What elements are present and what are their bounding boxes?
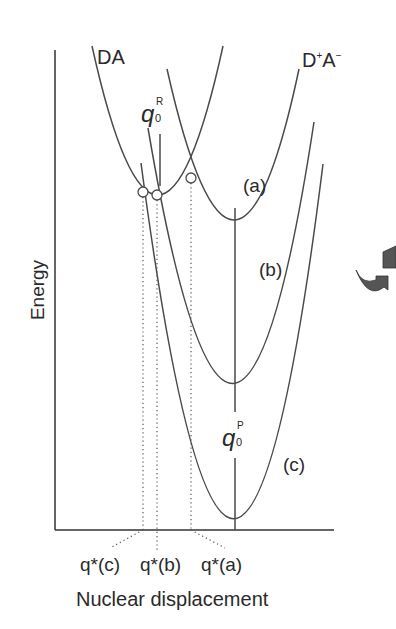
label-c: (c) <box>283 454 305 475</box>
leader-c <box>110 530 143 548</box>
label-qstar-b: q*(b) <box>140 554 181 575</box>
product-curve-a <box>167 69 299 220</box>
leader-a <box>191 530 225 548</box>
label-q0P: q <box>222 424 236 451</box>
label-q0R-sub: 0 <box>155 112 161 124</box>
y-axis-label: Energy <box>27 259 48 320</box>
label-q0R-sup: R <box>156 96 163 107</box>
label-DpAm: D+A− <box>302 49 342 71</box>
crossing-point-c <box>138 187 148 197</box>
label-qstar-c: q*(c) <box>80 554 120 575</box>
crossing-point-b <box>152 190 162 200</box>
x-axis-label: Nuclear displacement <box>76 588 269 610</box>
crossing-point-a <box>186 173 196 183</box>
label-qstar-a: q*(a) <box>201 554 242 575</box>
label-q0P-sub: 0 <box>236 436 242 448</box>
product-curve-b <box>148 122 314 384</box>
label-q0R: q <box>141 100 155 127</box>
label-q0P-sup: P <box>237 420 244 431</box>
label-b: (b) <box>259 259 282 280</box>
marcus-parabola-diagram: DA D+A− (a) (b) (c) q 0 R q 0 P Energy N… <box>0 0 396 629</box>
label-DA: DA <box>97 46 125 68</box>
rotate-arrows-icon <box>356 246 396 291</box>
label-a: (a) <box>243 175 266 196</box>
